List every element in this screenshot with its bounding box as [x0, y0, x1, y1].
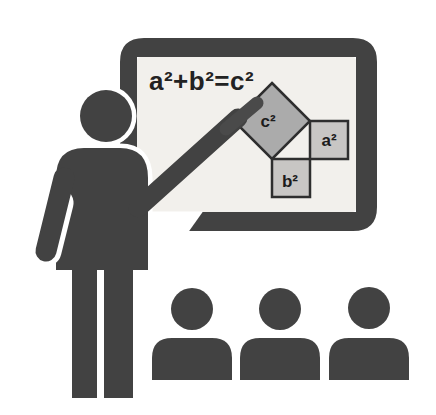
square-c-label: c²	[260, 112, 275, 131]
classroom-illustration-canvas: a²+b²=c² c² a² b²	[0, 0, 436, 415]
square-a-label: a²	[321, 131, 336, 150]
student-figure	[240, 288, 320, 380]
student-figure	[329, 287, 409, 380]
students-group	[152, 287, 409, 380]
student-body	[240, 338, 320, 380]
whiteboard: a²+b²=c² c² a² b²	[120, 38, 377, 234]
formula-text: a²+b²=c²	[149, 66, 254, 96]
student-head	[171, 288, 213, 330]
square-b-label: b²	[282, 172, 298, 191]
teacher-right-leg	[104, 250, 133, 398]
student-head	[259, 288, 301, 330]
student-body	[329, 338, 409, 380]
classroom-illustration: a²+b²=c² c² a² b²	[0, 0, 436, 415]
student-figure	[152, 288, 232, 380]
student-body	[152, 338, 232, 380]
teacher-head	[80, 90, 132, 142]
student-head	[348, 287, 390, 329]
teacher-left-leg	[72, 250, 97, 398]
